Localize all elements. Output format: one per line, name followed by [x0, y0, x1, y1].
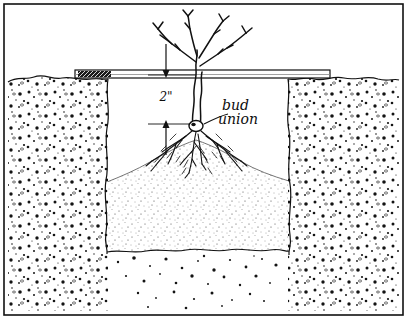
native-soil-left	[8, 76, 108, 311]
planting-diagram-figure: 2" bud union	[0, 0, 407, 319]
native-soil-right	[288, 77, 399, 311]
board-tag	[78, 71, 111, 77]
diagram-canvas: 2" bud union	[0, 0, 407, 319]
leveling-board	[75, 70, 330, 78]
bud-union-label-line2: union	[218, 111, 258, 127]
bud-union-node	[189, 121, 203, 132]
depth-dimension-label: 2"	[158, 90, 172, 104]
